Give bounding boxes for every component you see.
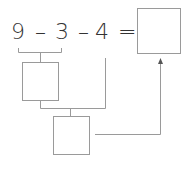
bracket-9-3 <box>19 48 62 53</box>
connector-box1-to-4 <box>41 101 106 109</box>
intermediate-box-1[interactable] <box>23 63 58 100</box>
arrow-head-icon <box>158 58 163 64</box>
answer-box[interactable] <box>138 9 180 53</box>
intermediate-box-2[interactable] <box>54 117 89 154</box>
arrow-line <box>95 63 161 135</box>
